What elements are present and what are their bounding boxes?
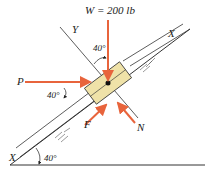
force-n-arrow xyxy=(118,103,135,123)
weight-label: W = 200 lb xyxy=(85,5,135,16)
force-p-label: P xyxy=(17,76,24,87)
angle-label-left: 40° xyxy=(47,91,60,100)
x-axis-label-bottom: X xyxy=(9,152,16,163)
y-axis-label: Y xyxy=(72,24,78,35)
force-n-label: N xyxy=(137,122,144,133)
free-body-diagram: W = 200 lb Y X 40° P 40° F N X 40° xyxy=(0,0,208,186)
force-f-label: F xyxy=(84,119,91,130)
x-axis-label-top: X xyxy=(168,28,175,39)
center-point xyxy=(106,81,111,86)
angle-label-incline: 40° xyxy=(44,154,57,163)
angle-label-top: 40° xyxy=(93,44,106,53)
diagram-graphics xyxy=(0,0,208,186)
